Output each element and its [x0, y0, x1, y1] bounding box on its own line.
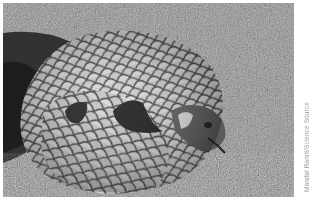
pangolin-photo — [3, 3, 294, 197]
caption-partial — [3, 200, 294, 206]
photo-credit: Mandal Ranjit/Science Source — [303, 102, 309, 192]
pangolin-illustration — [3, 3, 294, 197]
figure: Mandal Ranjit/Science Source — [0, 0, 309, 206]
